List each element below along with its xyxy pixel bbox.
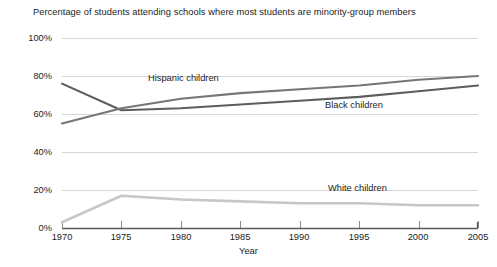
x-axis-ticks <box>63 221 479 228</box>
chart-figure: Percentage of students attending schools… <box>0 0 497 267</box>
y-tick-label-40: 40% <box>12 147 52 157</box>
y-tick-label-100: 100% <box>12 33 52 43</box>
x-tick-label-1970: 1970 <box>39 232 85 242</box>
y-tick-label-80: 80% <box>12 71 52 81</box>
x-tick-label-1975: 1975 <box>98 232 144 242</box>
data-series-lines <box>62 76 478 222</box>
x-tick-label-1990: 1990 <box>276 232 322 242</box>
x-tick-label-2000: 2000 <box>395 232 441 242</box>
series-label-black-children: Black children <box>325 100 383 110</box>
line-chart-plot <box>0 0 497 267</box>
series-label-hispanic-children: Hispanic children <box>148 73 219 83</box>
y-tick-label-20: 20% <box>12 185 52 195</box>
x-tick-label-1995: 1995 <box>336 232 382 242</box>
series-label-white-children: White children <box>328 183 387 193</box>
x-tick-label-1985: 1985 <box>217 232 263 242</box>
series-line-hispanic-children <box>62 76 478 124</box>
x-tick-label-1980: 1980 <box>158 232 204 242</box>
y-tick-label-60: 60% <box>12 109 52 119</box>
gridlines <box>62 39 478 191</box>
series-line-black-children <box>62 84 478 111</box>
x-tick-label-2005: 2005 <box>455 232 497 242</box>
x-axis-title: Year <box>0 246 497 256</box>
series-line-white-children <box>62 196 478 223</box>
